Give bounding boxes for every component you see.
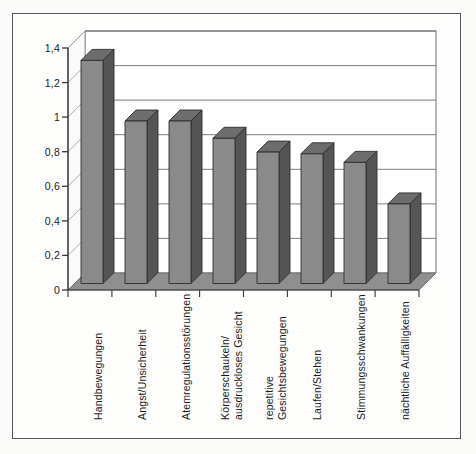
bar-chart: 1,4 1,2 1 0,8 0,6 0,4 0,2 0 Handbewegung…	[13, 14, 462, 440]
x-category-label-6-line-1: Laufen/Stehen	[311, 350, 323, 420]
x-category-label-4-line-2: ausdruckloses Gesicht	[232, 311, 245, 420]
x-axis-category-labels: Handbewegungen Angst/Unsicherheit Atemre…	[13, 14, 462, 440]
x-category-label-2: Angst/Unsicherheit	[137, 329, 149, 420]
x-category-label-5-line-1: repetitive	[263, 376, 275, 420]
x-category-label-5-line-2: Gesichtsbewegungen	[276, 316, 289, 420]
x-category-label-3-line-1: Atemregulationsstörungen	[180, 294, 192, 420]
x-category-label-4-line-1: Körperschaukeln/	[219, 336, 231, 420]
x-category-label-5: repetitive Gesichtsbewegungen	[263, 316, 288, 420]
x-category-label-6: Laufen/Stehen	[312, 350, 324, 420]
x-category-label-1: Handbewegungen	[93, 333, 105, 420]
figure-root: 1,4 1,2 1 0,8 0,6 0,4 0,2 0 Handbewegung…	[0, 0, 476, 454]
x-category-label-3: Atemregulationsstörungen	[181, 294, 193, 420]
x-category-label-8: nächtliche Auffälligkeiten	[400, 301, 412, 420]
x-category-label-8-line-1: nächtliche Auffälligkeiten	[399, 301, 411, 420]
x-category-label-7: Stimmungsschwankungen	[356, 294, 368, 420]
figure-outer-frame: 1,4 1,2 1 0,8 0,6 0,4 0,2 0 Handbewegung…	[12, 13, 461, 439]
x-category-label-7-line-1: Stimmungsschwankungen	[355, 294, 367, 420]
x-category-label-4: Körperschaukeln/ ausdruckloses Gesicht	[219, 311, 244, 420]
x-category-label-1-line-1: Handbewegungen	[92, 333, 104, 420]
x-category-label-2-line-1: Angst/Unsicherheit	[136, 329, 148, 420]
